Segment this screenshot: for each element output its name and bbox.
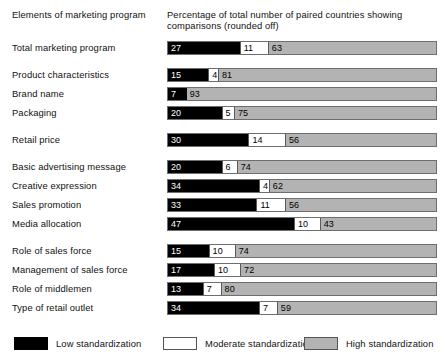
bar-segment-value: 34 bbox=[168, 181, 181, 191]
bar-segment-value: 59 bbox=[278, 303, 291, 313]
bar-row-label: Packaging bbox=[12, 107, 164, 119]
bar-row-label: Media allocation bbox=[12, 218, 164, 230]
bar-track: 471043 bbox=[167, 217, 437, 231]
bar-segment-value: 15 bbox=[168, 246, 181, 256]
bar-segment-low: 20 bbox=[168, 161, 222, 173]
bar-track: 301456 bbox=[167, 133, 437, 147]
bar-row: Packaging20575 bbox=[0, 106, 445, 120]
stacked-bar-chart: Elements of marketing program Percentage… bbox=[0, 0, 445, 364]
bar-segment-moderate: 4 bbox=[208, 69, 219, 81]
bar-segment-value: 5 bbox=[223, 108, 231, 118]
bar-track: 15481 bbox=[167, 68, 437, 82]
bar-segment-low: 27 bbox=[168, 42, 240, 54]
bar-segment-moderate: 10 bbox=[209, 245, 236, 257]
bar-row-label: Type of retail outlet bbox=[12, 302, 164, 314]
column-header-elements: Elements of marketing program bbox=[12, 9, 162, 20]
bar-segment-low: 33 bbox=[168, 199, 256, 211]
bar-row: Creative expression34462 bbox=[0, 179, 445, 193]
bar-row: Sales promotion331156 bbox=[0, 198, 445, 212]
legend-label: Low standardization bbox=[56, 338, 141, 349]
bar-row: Basic advertising message20674 bbox=[0, 160, 445, 174]
bar-segment-low: 34 bbox=[168, 180, 259, 192]
bar-segment-high: 81 bbox=[219, 69, 436, 81]
bar-row-label: Retail price bbox=[12, 134, 164, 146]
bar-segment-value: 10 bbox=[210, 246, 223, 256]
bar-track: 34462 bbox=[167, 179, 437, 193]
bar-segment-moderate: 11 bbox=[256, 199, 285, 211]
bar-segment-high: 59 bbox=[278, 302, 436, 314]
bar-track: 20575 bbox=[167, 106, 437, 120]
bar-segment-high: 56 bbox=[286, 199, 436, 211]
bar-segment-value: 14 bbox=[249, 135, 262, 145]
bar-segment-value: 10 bbox=[215, 265, 228, 275]
bar-track: 13780 bbox=[167, 282, 437, 296]
bar-segment-high: 80 bbox=[222, 283, 436, 295]
bar-segment-moderate: 5 bbox=[222, 107, 235, 119]
bar-segment-value: 11 bbox=[257, 200, 270, 210]
black-swatch bbox=[14, 337, 48, 350]
bar-row-label: Sales promotion bbox=[12, 199, 164, 211]
bar-segment-value: 56 bbox=[286, 135, 299, 145]
legend-item: Low standardization bbox=[14, 336, 141, 351]
bar-row-label: Brand name bbox=[12, 88, 164, 100]
bar-track: 271163 bbox=[167, 41, 437, 55]
bar-segment-value: 10 bbox=[295, 219, 308, 229]
bar-row: Product characteristics15481 bbox=[0, 68, 445, 82]
bar-segment-low: 15 bbox=[168, 245, 209, 257]
bar-segment-high: 93 bbox=[187, 88, 436, 100]
bar-segment-moderate: 4 bbox=[259, 180, 270, 192]
legend-item: High standardization bbox=[304, 336, 433, 351]
bar-row-label: Total marketing program bbox=[12, 42, 164, 54]
bar-segment-value: 17 bbox=[168, 265, 181, 275]
bar-segment-value: 62 bbox=[270, 181, 283, 191]
bar-row-label: Creative expression bbox=[12, 180, 164, 192]
chart-legend: Low standardizationModerate standardizat… bbox=[0, 336, 445, 354]
bar-segment-high: 63 bbox=[269, 42, 436, 54]
bar-row-label: Role of middlemen bbox=[12, 283, 164, 295]
bar-row-label: Basic advertising message bbox=[12, 161, 164, 173]
bar-segment-low: 20 bbox=[168, 107, 222, 119]
bar-segment-moderate: 6 bbox=[222, 161, 238, 173]
bar-row-label: Role of sales force bbox=[12, 245, 164, 257]
bar-segment-high: 62 bbox=[270, 180, 436, 192]
bar-row-label: Management of sales force bbox=[12, 264, 164, 276]
bar-segment-high: 72 bbox=[241, 264, 436, 276]
legend-item: Moderate standardization bbox=[163, 336, 313, 351]
bar-segment-value: 74 bbox=[238, 162, 251, 172]
bar-segment-low: 30 bbox=[168, 134, 248, 146]
legend-label: High standardization bbox=[346, 338, 433, 349]
bar-segment-moderate: 10 bbox=[214, 264, 241, 276]
bar-segment-value: 56 bbox=[286, 200, 299, 210]
white-swatch bbox=[163, 337, 197, 350]
bar-segment-value: 74 bbox=[236, 246, 249, 256]
bar-segment-value: 6 bbox=[223, 162, 231, 172]
bar-segment-low: 47 bbox=[168, 218, 294, 230]
bar-segment-high: 74 bbox=[236, 245, 436, 257]
bar-segment-value: 20 bbox=[168, 162, 181, 172]
bar-row: Role of sales force151074 bbox=[0, 244, 445, 258]
bar-segment-value: 34 bbox=[168, 303, 181, 313]
bar-track: 331156 bbox=[167, 198, 437, 212]
bar-row: Total marketing program271163 bbox=[0, 41, 445, 55]
column-header-percentage: Percentage of total number of paired cou… bbox=[167, 9, 439, 31]
bar-segment-low: 34 bbox=[168, 302, 259, 314]
bar-segment-value: 13 bbox=[168, 284, 181, 294]
bar-row: Brand name7093 bbox=[0, 87, 445, 101]
bar-segment-value: 80 bbox=[222, 284, 235, 294]
bar-row-label: Product characteristics bbox=[12, 69, 164, 81]
bar-segment-moderate: 11 bbox=[240, 42, 269, 54]
bar-segment-value: 15 bbox=[168, 70, 181, 80]
bar-segment-low: 15 bbox=[168, 69, 208, 81]
bar-segment-high: 75 bbox=[235, 107, 436, 119]
bar-segment-low: 7 bbox=[168, 88, 187, 100]
bar-segment-value: 11 bbox=[241, 43, 254, 53]
bar-row: Type of retail outlet34759 bbox=[0, 301, 445, 315]
legend-label: Moderate standardization bbox=[205, 338, 313, 349]
bar-track: 34759 bbox=[167, 301, 437, 315]
bar-track: 20674 bbox=[167, 160, 437, 174]
chart-rows: Total marketing program271163Product cha… bbox=[0, 41, 445, 320]
bar-segment-value: 72 bbox=[241, 265, 254, 275]
bar-segment-value: 7 bbox=[168, 89, 176, 99]
bar-row: Management of sales force171072 bbox=[0, 263, 445, 277]
bar-segment-value: 4 bbox=[260, 181, 268, 191]
